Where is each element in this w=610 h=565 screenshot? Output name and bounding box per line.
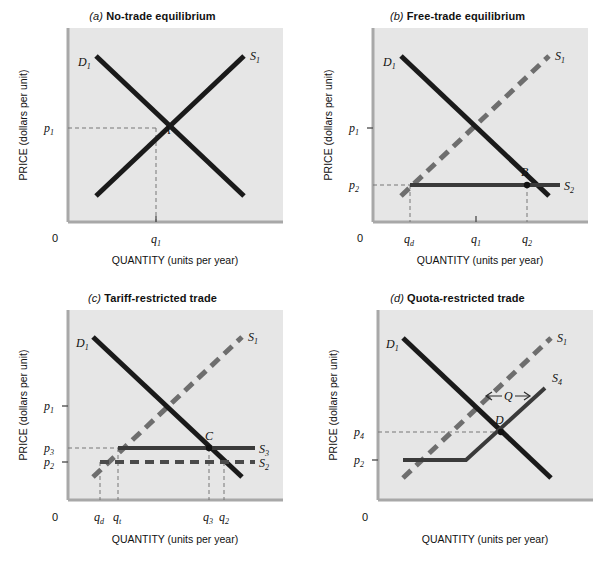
panel-b-ytick-label-p1: p1 bbox=[348, 121, 359, 137]
panel-b: (b) Free-trade equilibrium D1 S1 S2 bbox=[305, 10, 610, 285]
panel-d-y-axis-title: PRICE (dollars per unit) bbox=[327, 350, 339, 461]
panel-d-ytick-label-p4: p4 bbox=[353, 425, 364, 441]
panel-d-title: (d) Quota-restricted trade bbox=[305, 292, 610, 304]
panel-d-quota-width-annotation: Q bbox=[504, 389, 513, 403]
panel-b-x-axis-title: QUANTITY (units per year) bbox=[417, 254, 543, 266]
panel-b-y-axis-title: PRICE (dollars per unit) bbox=[322, 70, 334, 181]
panel-d-point-d-dot bbox=[498, 429, 504, 435]
panel-d-ytick-label-p2: p2 bbox=[353, 453, 364, 469]
panel-c-xtick-label-q2: q2 bbox=[219, 510, 229, 526]
panel-d-point-d: D bbox=[494, 413, 504, 427]
panel-b-chart: D1 S1 S2 p1 p2 qd q1 q2 B 0 bbox=[305, 10, 610, 270]
panel-a-point-a: A bbox=[162, 123, 171, 137]
panel-c-paren: (c) bbox=[88, 292, 101, 304]
panel-a: (a) No-trade equilibrium D1 S1 p1 q1 bbox=[0, 10, 305, 285]
panel-b-xtick-label-q2: q2 bbox=[522, 232, 532, 248]
panel-b-title: (b) Free-trade equilibrium bbox=[305, 10, 610, 22]
panel-b-xtick-label-qd: qd bbox=[404, 232, 415, 248]
panel-b-xtick-label-q1: q1 bbox=[471, 232, 481, 248]
panel-c-point-c: C bbox=[205, 429, 214, 443]
panel-a-y-axis-title: PRICE (dollars per unit) bbox=[17, 70, 29, 181]
panel-c-x-axis-title: QUANTITY (units per year) bbox=[112, 533, 238, 545]
panel-b-paren: (b) bbox=[390, 10, 404, 22]
panel-d-chart: Q D1 S1 S4 p4 p2 D 0 QUANTITY (units per… bbox=[305, 292, 610, 550]
panel-a-chart: D1 S1 p1 q1 A 0 QUANTITY (units per year… bbox=[0, 10, 305, 270]
panel-b-point-b-dot bbox=[524, 182, 530, 188]
cropped-caption-strip-top bbox=[60, 0, 360, 7]
panel-c-ytick-label-p1: p1 bbox=[43, 399, 54, 415]
panel-c-xtick-label-q3: q3 bbox=[203, 510, 213, 526]
panel-d: (d) Quota-restricted trade Q D1 S1 bbox=[305, 292, 610, 565]
economics-figure: (a) No-trade equilibrium D1 S1 p1 q1 bbox=[0, 0, 610, 565]
panel-a-title: (a) No-trade equilibrium bbox=[0, 10, 305, 22]
panel-c-origin: 0 bbox=[52, 511, 58, 523]
panel-a-paren: (a) bbox=[89, 10, 103, 22]
panel-a-xtick-label-q1: q1 bbox=[151, 232, 161, 248]
panel-c-title: (c) Tariff-restricted trade bbox=[0, 292, 305, 304]
panel-a-x-axis-title: QUANTITY (units per year) bbox=[112, 254, 238, 266]
panel-d-x-axis-title: QUANTITY (units per year) bbox=[422, 533, 548, 545]
panel-a-origin: 0 bbox=[52, 232, 58, 244]
panel-d-origin: 0 bbox=[362, 511, 368, 523]
panel-c: (c) Tariff-restricted trade D1 S1 bbox=[0, 292, 305, 565]
panel-b-origin: 0 bbox=[357, 232, 363, 244]
panel-b-ytick-label-p2: p2 bbox=[348, 178, 359, 194]
panel-c-xtick-label-qd: qd bbox=[94, 510, 105, 526]
panel-c-y-axis-title: PRICE (dollars per unit) bbox=[17, 350, 29, 461]
panel-c-ytick-label-p2: p2 bbox=[43, 455, 54, 471]
panel-d-paren: (d) bbox=[390, 292, 404, 304]
panel-d-title-text: Quota-restricted trade bbox=[407, 292, 525, 304]
panel-a-ytick-p1: p1 bbox=[43, 121, 54, 137]
panel-b-title-text: Free-trade equilibrium bbox=[407, 10, 525, 22]
panel-c-title-text: Tariff-restricted trade bbox=[104, 292, 217, 304]
panel-c-point-c-dot bbox=[206, 445, 212, 451]
panel-c-xtick-label-qt: qt bbox=[113, 510, 122, 526]
panel-c-chart: D1 S1 S3 S2 p1 p3 p2 qd bbox=[0, 292, 305, 550]
panel-b-point-b: B bbox=[521, 165, 529, 179]
panel-a-title-text: No-trade equilibrium bbox=[106, 10, 216, 22]
